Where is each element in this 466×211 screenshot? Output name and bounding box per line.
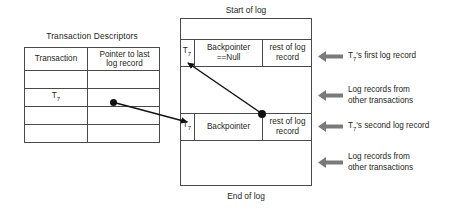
annotation-second-log-record: T7's second log record <box>348 121 429 134</box>
transaction-descriptors-table: Transaction Pointer to last log record T… <box>24 47 160 143</box>
cell-transaction-t7: T7 <box>25 89 88 106</box>
log-record-transaction-id: T7 <box>180 40 195 66</box>
cell-transaction <box>25 107 88 124</box>
log-record-transaction-label: T7 <box>183 120 191 133</box>
annotation-first-log-record: T7's first log record <box>348 51 416 64</box>
start-of-log-label: Start of log <box>180 5 312 15</box>
annotation-other-transactions-lower: Log records from other transactions <box>348 152 413 173</box>
cell-pointer <box>88 107 161 124</box>
end-of-log-label: End of log <box>180 191 312 201</box>
column-header-pointer-label: Pointer to last log record <box>99 50 149 69</box>
log-record-transaction-label: T7 <box>183 46 191 59</box>
table-row-t7[interactable]: T7 <box>25 89 159 107</box>
column-header-pointer: Pointer to last log record <box>88 48 161 70</box>
callout-arrow-first-log-record <box>318 51 343 62</box>
cell-pointer <box>88 125 161 142</box>
annotation-other-transactions-upper: Log records from other transactions <box>348 85 413 106</box>
log-record-backpointer: Backpointer <box>195 114 263 140</box>
diagram-canvas: Transaction Descriptors Transaction Poin… <box>0 0 466 211</box>
log-record-transaction-id: T7 <box>180 114 195 140</box>
log-record-rest: rest of log record <box>263 114 312 140</box>
log-record-backpointer: Backpointer ==Null <box>195 40 263 66</box>
callout-arrows <box>318 51 343 168</box>
cell-pointer-t7 <box>88 89 161 106</box>
last-log-record-pointer-dot <box>110 99 117 106</box>
log-record-rest: rest of log record <box>263 40 312 66</box>
log-panel: T7 Backpointer ==Null rest of log record… <box>180 18 312 186</box>
cell-transaction <box>25 125 88 142</box>
table-row[interactable] <box>25 125 159 142</box>
descriptors-title: Transaction Descriptors <box>32 31 152 41</box>
transaction-id-label: T7 <box>52 91 60 104</box>
log-record-first[interactable]: T7 Backpointer ==Null rest of log record <box>180 39 312 67</box>
log-record-second[interactable]: T7 Backpointer rest of log record <box>180 113 312 141</box>
cell-transaction <box>25 71 88 88</box>
callout-arrow-other-transactions-lower <box>318 157 343 168</box>
table-row[interactable] <box>25 71 159 89</box>
table-row[interactable] <box>25 107 159 125</box>
column-header-transaction: Transaction <box>25 48 88 70</box>
cell-pointer <box>88 71 161 88</box>
column-header-transaction-label: Transaction <box>35 54 77 64</box>
table-header-row: Transaction Pointer to last log record <box>25 48 159 71</box>
callout-arrow-other-transactions-upper <box>318 90 343 101</box>
callout-arrow-second-log-record <box>318 121 343 132</box>
